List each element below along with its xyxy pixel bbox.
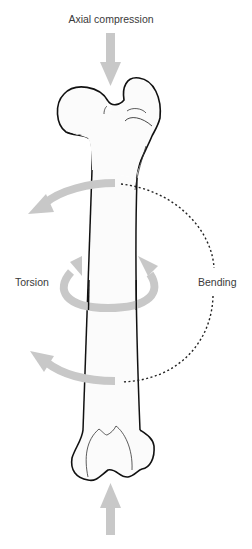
femur-bone — [57, 78, 160, 481]
femur-diagram — [0, 0, 252, 549]
axial-arrow-up-icon — [100, 483, 121, 535]
torsion-label: Torsion — [15, 276, 49, 288]
axial-arrow-down-icon — [100, 33, 121, 86]
bending-label: Bending — [198, 276, 237, 288]
axial-compression-label: Axial compression — [0, 13, 222, 25]
